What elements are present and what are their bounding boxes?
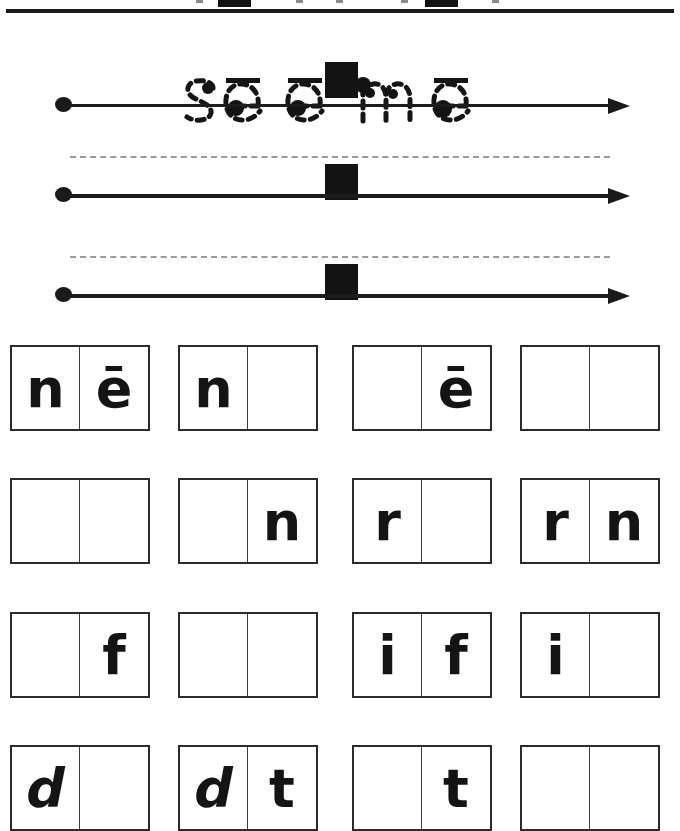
letter-glyph: r (374, 495, 401, 549)
letter-cell-right[interactable]: t (422, 747, 490, 829)
letter-cell-left[interactable]: r (354, 480, 422, 562)
letter-box-row3-col3[interactable]: if (352, 612, 492, 698)
letter-glyph: n (263, 495, 301, 549)
letter-glyph: n (605, 495, 643, 549)
letter-cell-left[interactable] (522, 747, 590, 829)
letter-cell-left[interactable]: d (180, 747, 248, 829)
letter-glyph: f (444, 629, 468, 683)
letter-cell-right[interactable] (248, 347, 316, 429)
letter-cell-left[interactable]: n (180, 347, 248, 429)
letter-cell-left[interactable] (12, 614, 80, 696)
letter-glyph: n (26, 362, 64, 416)
letter-cell-left[interactable] (180, 614, 248, 696)
letter-cell-left[interactable] (522, 347, 590, 429)
letter-box-row2-col4[interactable]: rn (520, 478, 660, 564)
letter-box-row3-col1[interactable]: f (10, 612, 150, 698)
letter-glyph: d (194, 762, 233, 816)
letter-cell-right[interactable] (590, 614, 658, 696)
letter-cell-right[interactable]: ē (422, 347, 490, 429)
letter-cell-left[interactable]: d (12, 747, 80, 829)
letter-box-row4-col3[interactable]: t (352, 745, 492, 831)
letter-box-row1-col1[interactable]: nē (10, 345, 150, 431)
letter-glyph: t (269, 762, 295, 816)
letter-cell-right[interactable] (80, 480, 148, 562)
letter-cell-right[interactable]: ē (80, 347, 148, 429)
letter-cell-left[interactable]: i (354, 614, 422, 696)
letter-box-row2-col3[interactable]: r (352, 478, 492, 564)
letter-cell-right[interactable] (590, 347, 658, 429)
letter-box-row4-col1[interactable]: d (10, 745, 150, 831)
letter-cell-left[interactable]: n (12, 347, 80, 429)
letter-box-row3-col4[interactable]: i (520, 612, 660, 698)
letter-glyph: ē (438, 362, 475, 416)
letter-glyph: ē (96, 362, 133, 416)
letter-cell-left[interactable] (180, 480, 248, 562)
letter-cell-left[interactable]: i (522, 614, 590, 696)
letter-cell-left[interactable] (12, 480, 80, 562)
letter-glyph: r (542, 495, 569, 549)
letter-cell-right[interactable]: n (590, 480, 658, 562)
letter-glyph: i (546, 629, 565, 683)
letter-glyph: n (194, 362, 232, 416)
letter-cell-right[interactable] (590, 747, 658, 829)
letter-box-row2-col1[interactable] (10, 478, 150, 564)
letter-glyph: d (26, 762, 65, 816)
letter-box-row1-col4[interactable] (520, 345, 660, 431)
letter-cell-right[interactable] (248, 614, 316, 696)
letter-glyph: f (102, 629, 126, 683)
letter-box-row4-col4[interactable] (520, 745, 660, 831)
letter-cell-right[interactable]: t (248, 747, 316, 829)
letter-cell-left[interactable]: r (522, 480, 590, 562)
letter-cell-right[interactable] (422, 480, 490, 562)
letter-box-row2-col2[interactable]: n (178, 478, 318, 564)
letter-box-row3-col2[interactable] (178, 612, 318, 698)
letter-glyph: t (443, 762, 469, 816)
letter-cell-right[interactable] (80, 747, 148, 829)
letter-box-row1-col2[interactable]: n (178, 345, 318, 431)
letter-cell-left[interactable] (354, 747, 422, 829)
letter-glyph: i (378, 629, 397, 683)
letter-cell-right[interactable]: f (80, 614, 148, 696)
letter-box-row1-col3[interactable]: ē (352, 345, 492, 431)
letter-cell-right[interactable]: n (248, 480, 316, 562)
letter-box-row4-col2[interactable]: dt (178, 745, 318, 831)
letter-cell-right[interactable]: f (422, 614, 490, 696)
letter-cell-left[interactable] (354, 347, 422, 429)
